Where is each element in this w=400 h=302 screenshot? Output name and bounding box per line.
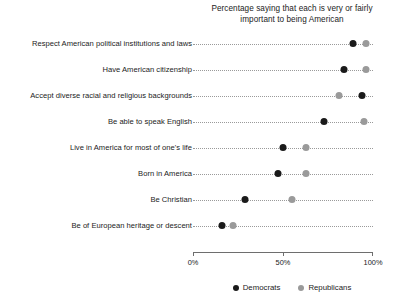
chart-title-line-2: important to being American xyxy=(240,15,343,24)
row-connector-line xyxy=(193,44,373,45)
chart-row: Respect American political institutions … xyxy=(0,36,400,52)
chart-title-line-1: Percentage saying that each is very or f… xyxy=(211,4,372,13)
data-point-republicans[interactable] xyxy=(289,196,296,203)
data-point-democrats[interactable] xyxy=(359,92,366,99)
x-axis-tick-label: 100% xyxy=(364,258,383,267)
data-point-democrats[interactable] xyxy=(242,196,249,203)
data-point-republicans[interactable] xyxy=(362,40,369,47)
data-point-democrats[interactable] xyxy=(218,222,225,229)
data-point-republicans[interactable] xyxy=(362,66,369,73)
chart-row: Accept diverse racial and religious back… xyxy=(0,88,400,104)
category-label: Be of European heritage or descent xyxy=(71,218,192,234)
legend-label: Democrats xyxy=(243,283,281,292)
data-point-democrats[interactable] xyxy=(280,144,287,151)
chart-title: Percentage saying that each is very or f… xyxy=(186,3,398,25)
row-connector-line xyxy=(193,200,373,201)
x-axis-tick xyxy=(193,252,194,256)
data-point-democrats[interactable] xyxy=(321,118,328,125)
x-axis-tick xyxy=(372,252,373,256)
category-label: Live in America for most of one's life xyxy=(70,140,192,156)
row-connector-line xyxy=(193,174,373,175)
chart-row: Born in America xyxy=(0,166,400,182)
x-axis-tick xyxy=(283,252,284,256)
row-connector-line xyxy=(193,96,373,97)
data-point-republicans[interactable] xyxy=(229,222,236,229)
row-connector-line xyxy=(193,122,373,123)
legend-label: Republicans xyxy=(308,283,351,292)
legend-item-republicans[interactable]: Republicans xyxy=(298,283,351,292)
chart-row: Be of European heritage or descent xyxy=(0,218,400,234)
data-point-democrats[interactable] xyxy=(274,170,281,177)
data-point-republicans[interactable] xyxy=(303,170,310,177)
category-label: Have American citizenship xyxy=(102,62,192,78)
x-axis-tick-label: 0% xyxy=(188,258,199,267)
legend-dot-icon xyxy=(233,285,239,291)
data-point-democrats[interactable] xyxy=(341,66,348,73)
category-label: Born in America xyxy=(138,166,192,182)
legend-dot-icon xyxy=(298,285,304,291)
legend-item-democrats[interactable]: Democrats xyxy=(233,283,281,292)
data-point-republicans[interactable] xyxy=(361,118,368,125)
chart-row: Be able to speak English xyxy=(0,114,400,130)
x-axis: 0%50%100% xyxy=(193,252,373,253)
data-point-republicans[interactable] xyxy=(303,144,310,151)
data-point-republicans[interactable] xyxy=(335,92,342,99)
chart-row: Be Christian xyxy=(0,192,400,208)
chart-legend: DemocratsRepublicans xyxy=(186,283,398,292)
category-label: Accept diverse racial and religious back… xyxy=(30,88,192,104)
x-axis-tick-label: 50% xyxy=(276,258,291,267)
category-label: Be able to speak English xyxy=(108,114,192,130)
dot-plot-chart: Percentage saying that each is very or f… xyxy=(0,0,400,302)
chart-row: Live in America for most of one's life xyxy=(0,140,400,156)
data-point-democrats[interactable] xyxy=(350,40,357,47)
category-label: Be Christian xyxy=(150,192,192,208)
category-label: Respect American political institutions … xyxy=(32,36,192,52)
chart-row: Have American citizenship xyxy=(0,62,400,78)
